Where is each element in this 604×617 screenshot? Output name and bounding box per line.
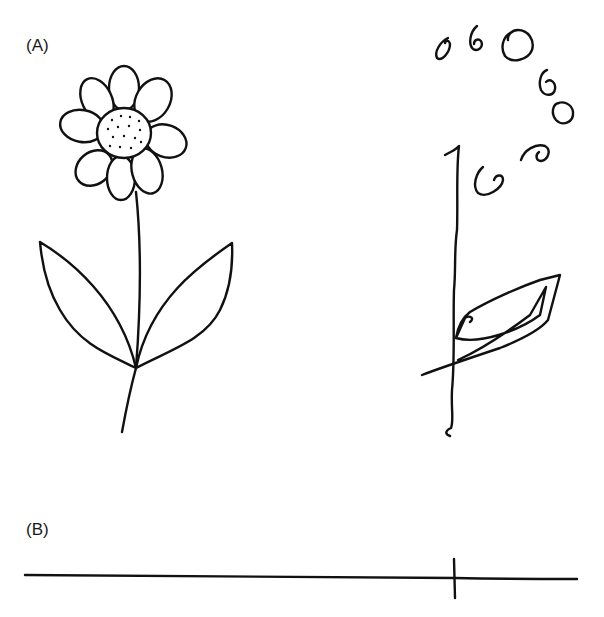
flower-center [97, 108, 151, 158]
loop [475, 167, 503, 195]
copied-stem [445, 146, 459, 436]
copied-leaf [422, 275, 560, 375]
copied-flower [422, 26, 573, 436]
flower-stem [122, 192, 140, 432]
bisection-mark [454, 559, 455, 598]
loop [470, 26, 482, 50]
right-leaf [136, 243, 232, 368]
loop [553, 102, 573, 123]
loop [540, 70, 555, 95]
model-flower [40, 66, 232, 432]
loop [503, 30, 533, 60]
figure-canvas [0, 0, 604, 617]
loop [521, 145, 549, 161]
left-leaf [40, 242, 136, 368]
line-bisection [25, 559, 577, 598]
bisection-line [25, 575, 577, 579]
loop [436, 38, 450, 59]
